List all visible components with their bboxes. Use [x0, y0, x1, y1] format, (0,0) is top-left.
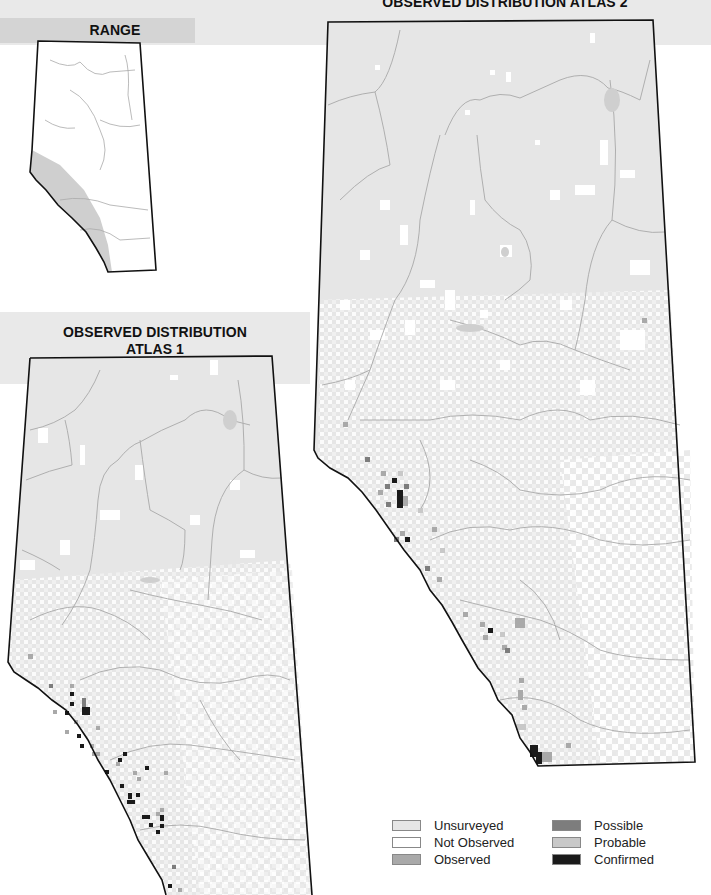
swatch-confirmed — [552, 854, 581, 865]
swatch-probable — [552, 837, 581, 848]
legend-label: Confirmed — [594, 852, 654, 868]
swatch-not-observed — [392, 837, 421, 848]
range-map — [30, 41, 156, 272]
legend-label: Unsurveyed — [434, 818, 503, 834]
swatch-unsurveyed — [392, 820, 421, 831]
legend-label: Observed — [434, 852, 490, 868]
legend: Unsurveyed Not Observed Observed Possibl… — [392, 818, 692, 878]
legend-label: Possible — [594, 818, 643, 834]
legend-label: Not Observed — [434, 835, 514, 851]
swatch-observed — [392, 854, 421, 865]
atlas1-map — [8, 356, 312, 895]
maps-canvas — [0, 0, 711, 895]
swatch-possible — [552, 820, 581, 831]
atlas2-map — [314, 20, 695, 766]
legend-label: Probable — [594, 835, 646, 851]
